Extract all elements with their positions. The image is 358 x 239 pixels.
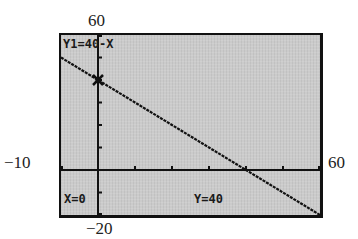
window-ymax-label: 60 (88, 12, 105, 29)
graph-plot (61, 35, 320, 215)
trace-y-readout: Y=40 (194, 193, 223, 205)
window-xmin-label: −10 (4, 154, 31, 171)
trace-x-readout: X=0 (64, 193, 86, 205)
trace-cursor-center (96, 78, 101, 83)
window-xmax-label: 60 (328, 154, 345, 171)
window-ymin-label: −20 (86, 220, 113, 237)
equation-label: Y1=40-X (63, 38, 114, 50)
calculator-graph-screen: Y1=40-X X=0 Y=40 (59, 33, 323, 218)
